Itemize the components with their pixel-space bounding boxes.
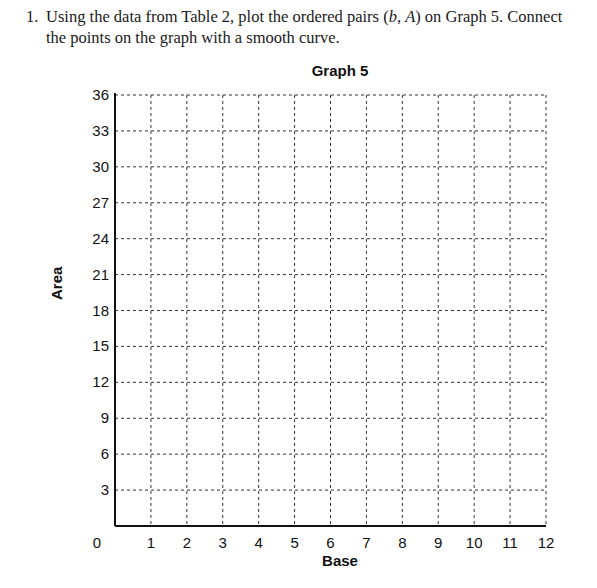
y-tick-label: 9: [101, 409, 109, 426]
x-tick-label: 2: [183, 534, 191, 551]
y-tick-label: 24: [92, 230, 109, 247]
y-tick-label: 6: [101, 445, 109, 462]
x-tick-label: 3: [219, 534, 227, 551]
x-tick-label: 0: [93, 534, 101, 551]
x-tick-label: 9: [434, 534, 442, 551]
graph-grid: 0123456789101112369121518212427303336: [0, 0, 597, 588]
y-tick-label: 27: [92, 194, 109, 211]
y-tick-label: 3: [101, 481, 109, 498]
y-tick-label: 36: [92, 86, 109, 103]
y-tick-label: 33: [92, 122, 109, 139]
y-tick-label: 21: [92, 266, 109, 283]
x-tick-label: 10: [466, 534, 483, 551]
y-tick-label: 15: [92, 337, 109, 354]
x-tick-label: 5: [290, 534, 298, 551]
y-tick-label: 12: [92, 373, 109, 390]
y-tick-label: 18: [92, 302, 109, 319]
x-tick-label: 1: [147, 534, 155, 551]
x-tick-label: 8: [398, 534, 406, 551]
x-tick-label: 11: [502, 534, 518, 551]
y-tick-label: 30: [92, 158, 109, 175]
x-tick-label: 4: [254, 534, 262, 551]
x-tick-label: 12: [538, 534, 555, 551]
x-tick-label: 6: [326, 534, 334, 551]
x-tick-label: 7: [362, 534, 370, 551]
